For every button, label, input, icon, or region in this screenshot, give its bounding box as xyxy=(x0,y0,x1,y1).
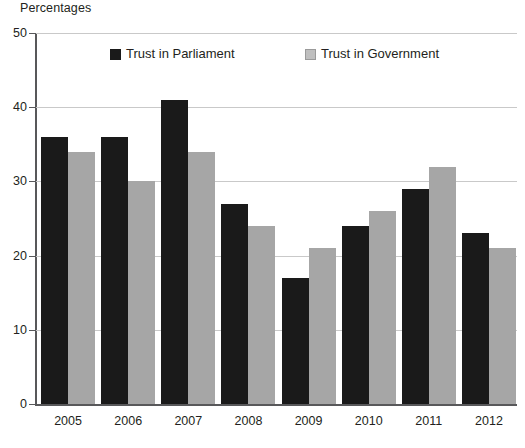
plot-area xyxy=(36,33,517,404)
legend-swatch-icon xyxy=(305,49,316,60)
bar xyxy=(68,152,95,404)
bar-group xyxy=(41,33,95,404)
legend-item-label: Trust in Government xyxy=(321,47,439,61)
bar xyxy=(161,100,188,404)
legend-item-trust-in-government: Trust in Government xyxy=(305,47,439,61)
bar-group xyxy=(221,33,275,404)
bar xyxy=(282,278,309,404)
bar-group xyxy=(282,33,336,404)
legend-item-label: Trust in Parliament xyxy=(126,47,235,61)
bar xyxy=(429,167,456,404)
bar xyxy=(41,137,68,404)
y-axis-title: Percentages xyxy=(20,1,91,15)
bar xyxy=(402,189,429,404)
bar xyxy=(342,226,369,404)
y-axis-tick-label: 40 xyxy=(1,101,27,113)
bar-group xyxy=(402,33,456,404)
legend-item-trust-in-parliament: Trust in Parliament xyxy=(110,47,235,61)
y-axis-tick xyxy=(29,107,36,108)
y-axis-tick xyxy=(29,404,36,405)
bar-group xyxy=(161,33,215,404)
x-axis-line xyxy=(35,404,517,406)
y-axis-tick xyxy=(29,181,36,182)
bar xyxy=(188,152,215,404)
bar-group xyxy=(101,33,155,404)
bar xyxy=(309,248,336,404)
bar xyxy=(489,248,516,404)
bar-group xyxy=(342,33,396,404)
bar-chart: Percentages 01020304050 2005200620072008… xyxy=(0,0,525,448)
bar xyxy=(101,137,128,404)
bar xyxy=(128,181,155,404)
y-axis-tick-label: 0 xyxy=(1,398,27,410)
y-axis-tick-label: 30 xyxy=(1,175,27,187)
bar xyxy=(369,211,396,404)
y-axis-tick-label: 50 xyxy=(1,27,27,39)
y-axis-tick-label: 10 xyxy=(1,324,27,336)
y-axis-tick xyxy=(29,33,36,34)
bar xyxy=(462,233,489,404)
y-axis-tick xyxy=(29,330,36,331)
y-axis-tick-label: 20 xyxy=(1,250,27,262)
y-axis-tick xyxy=(29,256,36,257)
bar xyxy=(221,204,248,404)
x-axis-tick-label: 2012 xyxy=(454,414,524,429)
y-axis-tick-labels: 01020304050 xyxy=(0,0,27,448)
legend-swatch-icon xyxy=(110,49,121,60)
bar-group xyxy=(462,33,516,404)
bar xyxy=(248,226,275,404)
